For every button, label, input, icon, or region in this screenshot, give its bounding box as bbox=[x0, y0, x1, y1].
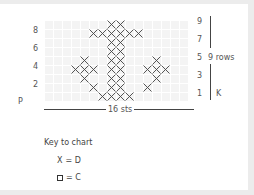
cross-stitch-icon bbox=[107, 56, 116, 65]
cross-stitch-icon bbox=[116, 20, 125, 29]
cross-stitch-icon bbox=[152, 56, 161, 65]
cross-stitch-icon bbox=[71, 65, 80, 74]
cross-stitch-icon bbox=[107, 83, 116, 92]
row-number-2: 2 bbox=[33, 80, 38, 89]
row-number-9: 9 bbox=[197, 17, 202, 26]
cross-stitch-icon bbox=[116, 65, 125, 74]
cross-stitch-icon bbox=[143, 65, 152, 74]
cross-stitch-icon bbox=[80, 65, 89, 74]
cross-stitch-icon bbox=[89, 29, 98, 38]
cross-stitch-icon bbox=[98, 29, 107, 38]
key-item-label: = C bbox=[66, 173, 81, 182]
rows-bracket-top bbox=[210, 16, 211, 48]
cross-stitch-icon bbox=[80, 74, 89, 83]
rows-count-label: 9 rows bbox=[208, 53, 234, 62]
key-item-x: X = D bbox=[57, 156, 81, 165]
cross-stitch-icon bbox=[107, 20, 116, 29]
key-title: Key to chart bbox=[44, 138, 92, 147]
cross-stitch-icon bbox=[125, 92, 134, 101]
stitch-grid bbox=[44, 20, 188, 101]
cross-stitch-icon bbox=[116, 92, 125, 101]
empty-square-icon bbox=[57, 175, 63, 181]
cross-stitch-icon bbox=[89, 65, 98, 74]
cross-stitch-icon bbox=[152, 74, 161, 83]
cross-stitch-icon bbox=[107, 74, 116, 83]
cross-stitch-icon bbox=[116, 47, 125, 56]
key-item-square: = C bbox=[57, 173, 81, 182]
cross-stitch-icon bbox=[143, 83, 152, 92]
cross-stitch-icon bbox=[107, 65, 116, 74]
stitches-count-label: 16 sts bbox=[108, 105, 132, 114]
cross-stitch-icon bbox=[107, 47, 116, 56]
cross-stitch-icon bbox=[116, 83, 125, 92]
cross-stitch-icon bbox=[89, 83, 98, 92]
cross-stitch-icon bbox=[152, 65, 161, 74]
row-number-7: 7 bbox=[197, 35, 202, 44]
stitches-bracket-right bbox=[134, 109, 194, 110]
rows-bracket-bottom bbox=[210, 64, 211, 100]
row-number-5: 5 bbox=[197, 53, 202, 62]
chart-card: 8 6 4 2 P 9 7 5 3 1 9 rows K 16 sts Key … bbox=[0, 4, 248, 190]
row-number-3: 3 bbox=[197, 71, 202, 80]
cross-stitch-icon bbox=[116, 56, 125, 65]
cross-stitch-icon bbox=[116, 29, 125, 38]
stitches-bracket-left bbox=[44, 109, 106, 110]
cross-stitch-icon bbox=[134, 29, 143, 38]
key-item-label: = D bbox=[65, 156, 80, 165]
cross-stitch-icon bbox=[116, 74, 125, 83]
cross-stitch-icon bbox=[80, 56, 89, 65]
cross-stitch-icon bbox=[107, 92, 116, 101]
cross-stitch-icon bbox=[107, 29, 116, 38]
cross-stitch-icon bbox=[125, 29, 134, 38]
cross-stitch-icon bbox=[98, 92, 107, 101]
cross-stitch-icon bbox=[107, 38, 116, 47]
row-number-1: 1 bbox=[197, 89, 202, 98]
cross-stitch-icon: X bbox=[57, 156, 62, 165]
cross-stitch-icon bbox=[116, 38, 125, 47]
knit-side-label: K bbox=[216, 89, 221, 98]
row-number-4: 4 bbox=[33, 62, 38, 71]
cross-stitch-icon bbox=[161, 65, 170, 74]
purl-side-label: P bbox=[18, 97, 23, 106]
row-number-6: 6 bbox=[33, 44, 38, 53]
row-number-8: 8 bbox=[33, 26, 38, 35]
